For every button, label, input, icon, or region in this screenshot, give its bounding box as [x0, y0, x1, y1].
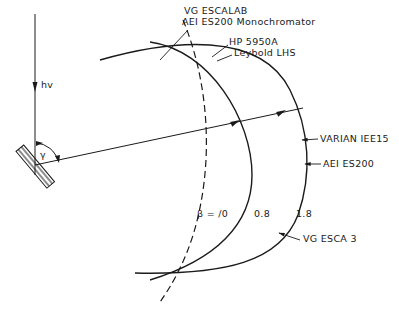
curve-beta-1.8 [100, 45, 307, 274]
label-aei-es200: AEI ES200 [323, 158, 374, 169]
label-varian-iee15: VARIAN IEE15 [320, 133, 389, 144]
arrow-down-icon [33, 82, 38, 92]
spectrometer-geometry-diagram: hv γ β = /0 0.8 1.8 VG ESCALAB AEI ES200… [0, 0, 399, 310]
gamma-label: γ [40, 149, 46, 160]
label-vg-esca3: VG ESCA 3 [303, 233, 357, 244]
label-hp-5950a: HP 5950A [229, 36, 278, 47]
curve-beta-0.8 [150, 42, 252, 280]
curve-beta-0 [160, 20, 206, 302]
beta-0.8-label: 0.8 [254, 208, 270, 219]
label-leybold-lhs: Leybold LHS [234, 47, 296, 58]
angle-gamma: γ [36, 141, 60, 163]
beta-1.8-label: 1.8 [296, 208, 312, 219]
beta-0-label: β = /0 [197, 208, 228, 219]
hv-label: hv [41, 79, 53, 90]
label-vg-escalab: VG ESCALAB [184, 5, 248, 16]
electron-trajectory [35, 108, 303, 165]
label-aei-es200-mono: AEI ES200 Monochromator [182, 16, 316, 27]
instrument-annotations: VG ESCALAB AEI ES200 Monochromator HP 59… [160, 5, 389, 244]
